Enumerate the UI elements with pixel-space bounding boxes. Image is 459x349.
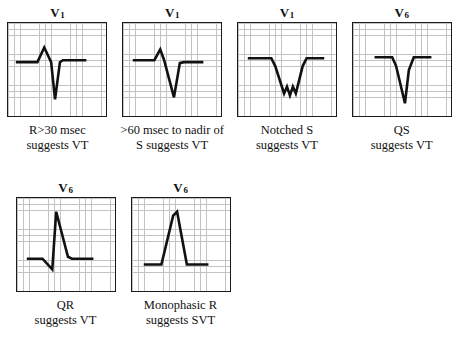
lead-label: V6: [173, 177, 187, 197]
ecg-panel-r-wave-greater-30-msec: V1 R>30 msec suggests VT: [0, 2, 115, 153]
caption-line-2: S suggests VT: [120, 138, 224, 153]
waveform-path: [374, 57, 431, 103]
ecg-panel-row-bottom: V6 QR suggests VT V6 Monophasic R: [0, 177, 459, 328]
lead-label-text: V: [165, 6, 175, 19]
lead-label-subscript: 6: [183, 186, 188, 195]
caption-line-2: suggests VT: [26, 138, 88, 153]
caption-line-2: suggests VT: [371, 138, 433, 153]
caption-line-1: QS: [371, 123, 433, 138]
lead-label: V1: [280, 2, 294, 22]
ecg-grid-panel: [237, 22, 337, 117]
ecg-grid-panel: [122, 22, 222, 117]
lead-label: V6: [394, 2, 408, 22]
waveform-path: [16, 47, 87, 99]
waveform-path: [248, 58, 324, 95]
lead-label-subscript: 1: [175, 11, 180, 20]
caption-line-1: QR: [35, 298, 97, 313]
lead-label-text: V: [173, 181, 183, 194]
lead-label: V1: [165, 2, 179, 22]
ecg-waveform-trace: [132, 198, 230, 291]
ecg-panel-qs-complex: V6 QS suggests VT: [344, 2, 459, 153]
ecg-grid-panel: [131, 197, 231, 292]
caption-line-2: suggests VT: [256, 138, 318, 153]
caption-line-1: >60 msec to nadir of: [120, 123, 224, 138]
lead-label-subscript: 6: [68, 186, 73, 195]
ecg-waveform-trace: [8, 23, 106, 116]
caption-line-2: suggests SVT: [144, 313, 217, 328]
lead-label-text: V: [58, 181, 68, 194]
caption-line-1: Notched S: [256, 123, 318, 138]
waveform-path: [26, 212, 93, 270]
ecg-waveform-trace: [238, 23, 336, 116]
caption-line-2: suggests VT: [35, 313, 97, 328]
waveform-path: [143, 212, 208, 265]
panel-caption: R>30 msec suggests VT: [26, 123, 88, 153]
caption-line-1: Monophasic R: [144, 298, 217, 313]
ecg-morphology-figure: V1 R>30 msec suggests VT V1 >60 ms: [0, 0, 459, 349]
ecg-waveform-trace: [123, 23, 221, 116]
panel-caption: Notched S suggests VT: [256, 123, 318, 153]
panel-caption: >60 msec to nadir of S suggests VT: [120, 123, 224, 153]
panel-caption: QR suggests VT: [35, 298, 97, 328]
lead-label: V6: [58, 177, 72, 197]
ecg-grid-panel: [7, 22, 107, 117]
lead-label-text: V: [280, 6, 290, 19]
caption-line-1: R>30 msec: [26, 123, 88, 138]
lead-label-text: V: [50, 6, 60, 19]
lead-label-subscript: 1: [60, 11, 65, 20]
panel-caption: QS suggests VT: [371, 123, 433, 153]
panel-caption: Monophasic R suggests SVT: [144, 298, 217, 328]
ecg-panel-notched-s-wave: V1 Notched S suggests VT: [230, 2, 345, 153]
ecg-grid-panel: [352, 22, 452, 117]
lead-label-subscript: 1: [290, 11, 295, 20]
ecg-panel-nadir-60-msec: V1 >60 msec to nadir of S suggests VT: [115, 2, 230, 153]
ecg-panel-qr-complex: V6 QR suggests VT: [8, 177, 123, 328]
ecg-grid-panel: [16, 197, 116, 292]
lead-label: V1: [50, 2, 64, 22]
ecg-panel-monophasic-r-wave: V6 Monophasic R suggests SVT: [123, 177, 238, 328]
lead-label-subscript: 6: [405, 11, 410, 20]
ecg-panel-row-top: V1 R>30 msec suggests VT V1 >60 ms: [0, 2, 459, 153]
waveform-path: [133, 49, 204, 97]
lead-label-text: V: [394, 6, 404, 19]
ecg-waveform-trace: [17, 198, 115, 291]
ecg-waveform-trace: [353, 23, 451, 116]
